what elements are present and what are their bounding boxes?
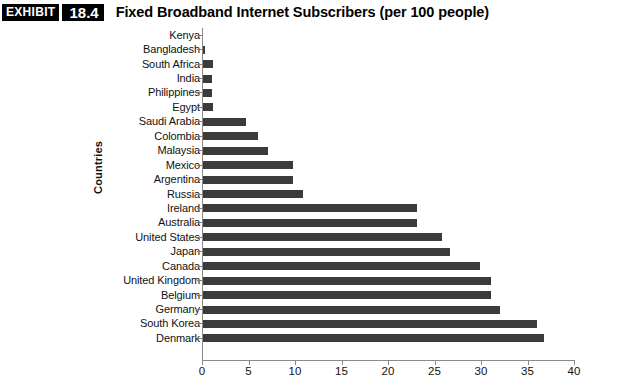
bar-track (202, 245, 450, 259)
bar-track (202, 187, 303, 201)
category-label: Denmark (0, 333, 200, 344)
category-label: Australia (0, 217, 200, 228)
x-tick-label: 40 (554, 366, 594, 378)
category-label: Argentina (0, 174, 200, 185)
bar-track (202, 115, 246, 129)
category-label: Russia (0, 189, 200, 200)
category-label: Mexico (0, 160, 200, 171)
bar-row: United States (0, 230, 625, 244)
bar-row: Kenya (0, 28, 625, 42)
category-label: South Africa (0, 59, 200, 70)
chart-title: Fixed Broadband Internet Subscribers (pe… (116, 4, 489, 20)
bar (202, 176, 293, 184)
bar-track (202, 129, 258, 143)
category-label: Colombia (0, 131, 200, 142)
bar-row: Philippines (0, 86, 625, 100)
x-tick-label: 0 (182, 366, 222, 378)
bar-track (202, 288, 491, 302)
bar-track (202, 144, 268, 158)
bar-track (202, 302, 500, 316)
exhibit-badge: EXHIBIT 18.4 (2, 4, 104, 21)
bar (202, 291, 491, 299)
bar (202, 248, 450, 256)
bar-row: Denmark (0, 331, 625, 345)
bar-track (202, 259, 480, 273)
bar (202, 233, 442, 241)
bar-row: India (0, 71, 625, 85)
bar (202, 147, 268, 155)
bar-track (202, 57, 213, 71)
bar-track (202, 230, 442, 244)
x-tick-label: 35 (508, 366, 548, 378)
bar-row: Australia (0, 216, 625, 230)
category-label: Malaysia (0, 145, 200, 156)
bar (202, 262, 480, 270)
bar (202, 190, 303, 198)
bar-row: Belgium (0, 288, 625, 302)
bar (202, 204, 417, 212)
bar-row: Canada (0, 259, 625, 273)
x-tick-label: 15 (322, 366, 362, 378)
category-label: Ireland (0, 203, 200, 214)
category-label: Saudi Arabia (0, 116, 200, 127)
bar-row: South Africa (0, 57, 625, 71)
bar (202, 161, 293, 169)
bar-track (202, 158, 293, 172)
bar (202, 60, 213, 68)
bar-track (202, 86, 212, 100)
x-tick-label: 30 (461, 366, 501, 378)
bar-track (202, 216, 417, 230)
x-tick-label: 10 (275, 366, 315, 378)
bar (202, 306, 500, 314)
bar-row: Germany (0, 302, 625, 316)
plot-area: Countries KenyaBangladeshSouth AfricaInd… (0, 24, 625, 380)
bar (202, 75, 212, 83)
bar (202, 320, 537, 328)
category-label: Japan (0, 246, 200, 257)
category-label: Germany (0, 304, 200, 315)
x-tick-label: 25 (415, 366, 455, 378)
bar (202, 89, 212, 97)
bar-track (202, 317, 537, 331)
category-label: United Kingdom (0, 275, 200, 286)
bar-row: United Kingdom (0, 273, 625, 287)
category-label: Philippines (0, 87, 200, 98)
category-label: Kenya (0, 30, 200, 41)
bar-row: Russia (0, 187, 625, 201)
bar (202, 132, 258, 140)
x-tick-label: 20 (368, 366, 408, 378)
bar-row: Ireland (0, 201, 625, 215)
bar (202, 277, 491, 285)
bar-track (202, 71, 212, 85)
bar-rows: KenyaBangladeshSouth AfricaIndiaPhilippi… (0, 28, 625, 346)
exhibit-number: 18.4 (62, 4, 103, 21)
bar-row: Saudi Arabia (0, 115, 625, 129)
category-label: Egypt (0, 102, 200, 113)
bar-track (202, 201, 417, 215)
bar (202, 103, 213, 111)
bar-track (202, 331, 544, 345)
bar-row: South Korea (0, 317, 625, 331)
bar (202, 118, 246, 126)
bar-track (202, 100, 213, 114)
x-tick-label: 5 (229, 366, 269, 378)
bar-row: Bangladesh (0, 42, 625, 56)
bar-row: Argentina (0, 172, 625, 186)
category-label: Bangladesh (0, 44, 200, 55)
bar-row: Malaysia (0, 144, 625, 158)
category-label: Belgium (0, 290, 200, 301)
category-label: United States (0, 232, 200, 243)
exhibit-header: EXHIBIT 18.4 Fixed Broadband Internet Su… (0, 0, 625, 24)
category-label: India (0, 73, 200, 84)
bar-row: Mexico (0, 158, 625, 172)
bar-row: Colombia (0, 129, 625, 143)
bar-row: Egypt (0, 100, 625, 114)
y-axis-line (202, 28, 203, 360)
bar (202, 219, 417, 227)
bar-track (202, 172, 293, 186)
bar-track (202, 273, 491, 287)
x-axis-ticks: 0510152025303540 (0, 360, 625, 380)
category-label: South Korea (0, 318, 200, 329)
bar (202, 334, 544, 342)
bar-row: Japan (0, 245, 625, 259)
